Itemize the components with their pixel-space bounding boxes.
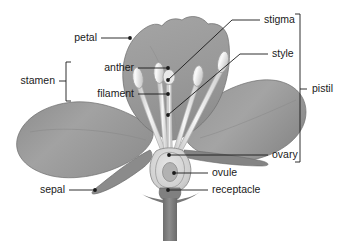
- label-filament: filament: [97, 87, 134, 99]
- label-stigma: stigma: [264, 13, 295, 25]
- label-sepal: sepal: [40, 183, 65, 195]
- stamen-bracket: [66, 62, 71, 101]
- label-petal: petal: [74, 31, 97, 43]
- leader-dot-petal: [128, 36, 132, 40]
- label-receptacle: receptacle: [212, 183, 261, 195]
- label-ovary: ovary: [272, 148, 298, 160]
- leader-dot-style: [166, 113, 170, 117]
- leader-dot-sepal: [93, 188, 97, 192]
- leader-dot-ovary: [167, 153, 171, 157]
- pistil-bracket: [295, 14, 300, 162]
- label-pistil: pistil: [312, 82, 333, 94]
- label-anther: anther: [104, 61, 134, 73]
- stem-part: [140, 192, 200, 241]
- stigma-shape: [163, 70, 175, 85]
- leader-dot-anther: [166, 66, 170, 70]
- leader-dot-stigma: [166, 78, 170, 82]
- label-ovule: ovule: [212, 166, 237, 178]
- label-style: style: [272, 47, 294, 59]
- diagram-canvas: petalstamenantherfilamentstigmastylepist…: [0, 0, 351, 241]
- leader-dot-filament: [166, 92, 170, 96]
- leader-dot-ovule: [172, 171, 176, 175]
- leader-dot-receptacle: [166, 188, 170, 192]
- flower-illustration: [17, 17, 306, 241]
- label-stamen: stamen: [21, 74, 56, 86]
- flower-anatomy-diagram: petalstamenantherfilamentstigmastylepist…: [0, 0, 351, 241]
